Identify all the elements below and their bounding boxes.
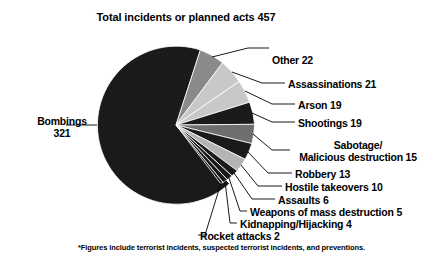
slice-label-hostile-takeovers: Hostile takeovers 10 bbox=[285, 182, 383, 194]
chart-footnote: *Figures include terrorist incidents, su… bbox=[0, 243, 443, 252]
slice-label-arson: Arson 19 bbox=[298, 100, 341, 112]
slice-label-bombings-value: 321 bbox=[54, 127, 71, 139]
slice-label-assaults: Assaults 6 bbox=[278, 195, 329, 207]
slice-label-sabotage-line2: Malicious destruction 15 bbox=[299, 151, 417, 163]
slice-label-other: Other 22 bbox=[272, 55, 313, 67]
slice-label-wmd: Weapons of mass destruction 5 bbox=[250, 207, 402, 219]
leader-line-other bbox=[212, 48, 269, 57]
slice-label-rocket-attacks: Rocket attacks 2 bbox=[200, 231, 280, 243]
leader-line-wmd bbox=[229, 178, 247, 211]
leader-line-hostile-takeovers bbox=[241, 165, 282, 186]
leader-line-kidnapping bbox=[225, 181, 237, 223]
slice-label-robbery: Robbery 13 bbox=[295, 169, 350, 181]
slice-label-bombings-name: Bombings bbox=[37, 115, 87, 127]
pie-chart-figure: Total incidents or planned acts 457 bbox=[0, 0, 443, 261]
leader-line-shootings bbox=[252, 113, 295, 122]
slice-label-bombings: Bombings 321 bbox=[30, 115, 94, 139]
slice-label-assassinations: Assassinations 21 bbox=[288, 79, 376, 91]
slice-label-sabotage: Sabotage/ Malicious destruction 15 bbox=[278, 139, 438, 163]
slice-label-kidnapping: Kidnapping/Hijacking 4 bbox=[240, 219, 352, 231]
pie-slices bbox=[97, 46, 254, 204]
slice-label-sabotage-line1: Sabotage/ bbox=[334, 139, 382, 151]
leader-line-arson bbox=[245, 91, 295, 104]
leader-line-assassinations bbox=[232, 72, 285, 83]
slice-label-shootings: Shootings 19 bbox=[298, 118, 362, 130]
